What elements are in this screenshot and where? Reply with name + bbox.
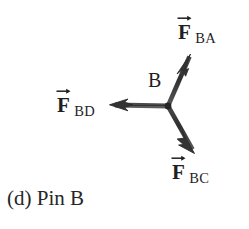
force-label-fba: F BA — [178, 22, 216, 43]
free-body-diagram-pin-b: B F BA F BD F BC (d) Pi — [0, 0, 249, 229]
force-subscript-bc: BC — [189, 170, 209, 186]
figure-caption: (d) Pin B — [7, 188, 84, 209]
pin-b-junction-node — [165, 103, 172, 110]
force-label-fbc: F BC — [172, 162, 209, 183]
force-subscript-bd: BD — [74, 103, 95, 119]
force-symbol-f: F — [172, 160, 189, 184]
force-symbol-f: F — [178, 20, 195, 44]
force-label-fbd: F BD — [57, 95, 95, 116]
force-symbol-letter: F — [57, 93, 69, 117]
force-vector-fbd — [110, 99, 169, 111]
force-vector-fbc — [168, 106, 195, 154]
force-symbol-letter: F — [178, 20, 190, 44]
force-vector-fba — [168, 54, 191, 106]
force-symbol-f: F — [57, 93, 74, 117]
force-subscript-ba: BA — [195, 30, 216, 46]
force-symbol-letter: F — [172, 160, 184, 184]
pin-b-node-label: B — [148, 70, 161, 90]
